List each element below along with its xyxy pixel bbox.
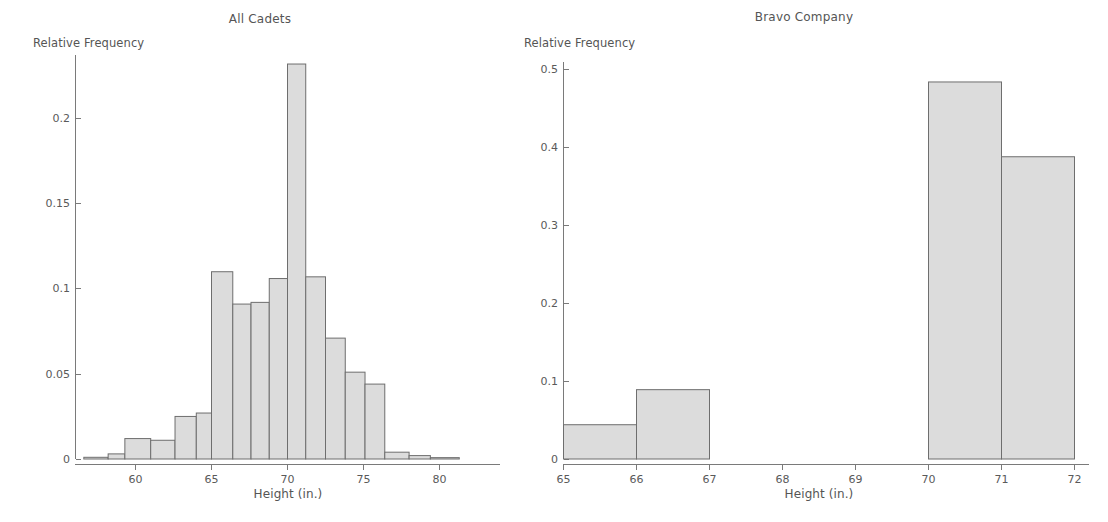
svg-text:70: 70 (281, 473, 295, 486)
svg-text:0.05: 0.05 (46, 368, 71, 381)
histogram-bar (151, 440, 175, 459)
histogram-figure: All Cadets Relative Frequency 0 0 (0, 0, 1108, 522)
svg-text:0: 0 (551, 453, 558, 466)
histogram-bar (306, 277, 326, 459)
x-axis-label-all-cadets: Height (in.) (188, 487, 388, 501)
svg-text:0.4: 0.4 (541, 141, 559, 154)
svg-text:0: 0 (63, 453, 70, 466)
svg-text:0.2: 0.2 (53, 112, 71, 125)
svg-text:0.1: 0.1 (541, 375, 559, 388)
svg-text:65: 65 (557, 473, 571, 486)
histogram-bar (212, 272, 233, 459)
svg-text:65: 65 (205, 473, 219, 486)
x-axis-tick-labels: 65 66 67 68 69 70 71 72 (557, 473, 1082, 486)
svg-text:0.1: 0.1 (53, 282, 71, 295)
histogram-bar (288, 64, 306, 459)
svg-text:67: 67 (703, 473, 717, 486)
histogram-bar (430, 458, 459, 459)
histogram-bar (269, 279, 287, 459)
x-axis-tick-labels: 60 65 70 75 80 (129, 473, 447, 486)
y-axis-ticks (76, 119, 81, 460)
svg-text:0.3: 0.3 (541, 219, 559, 232)
svg-text:66: 66 (630, 473, 644, 486)
histogram-bar (929, 82, 1002, 459)
y-axis-ticks (564, 70, 569, 460)
histogram-bar (637, 390, 710, 459)
histogram-bars-bravo-company (564, 82, 1075, 459)
svg-text:0.5: 0.5 (541, 63, 559, 76)
panel-bravo-company: Bravo Company Relative Frequency (554, 0, 1108, 522)
histogram-bar (1002, 157, 1075, 459)
histogram-bar (175, 416, 196, 459)
histogram-bar (251, 302, 269, 459)
svg-text:0.2: 0.2 (541, 297, 559, 310)
y-axis-tick-labels: 0 0.05 0.1 0.15 0.2 (46, 112, 71, 466)
svg-text:72: 72 (1068, 473, 1082, 486)
svg-text:70: 70 (922, 473, 936, 486)
plot-area-all-cadets: 0 0.05 0.1 0.15 0.2 60 65 70 (0, 0, 554, 500)
svg-text:80: 80 (433, 473, 447, 486)
histogram-bar (233, 304, 251, 459)
histogram-bar (84, 457, 108, 459)
svg-text:60: 60 (129, 473, 143, 486)
svg-text:75: 75 (357, 473, 371, 486)
panel-all-cadets: All Cadets Relative Frequency 0 0 (0, 0, 554, 522)
histogram-bar (196, 413, 211, 459)
svg-text:71: 71 (995, 473, 1009, 486)
svg-text:0.15: 0.15 (46, 197, 71, 210)
histogram-bar (326, 338, 346, 459)
histogram-bar (365, 384, 385, 459)
x-axis-ticks (564, 465, 1075, 470)
plot-area-bravo-company: 0 0.1 0.2 0.3 0.4 0.5 (554, 0, 1108, 500)
histogram-bars-all-cadets (84, 64, 459, 459)
histogram-bar (385, 452, 409, 459)
x-axis-ticks (136, 465, 440, 470)
x-axis-label-bravo-company: Height (in.) (719, 487, 919, 501)
svg-text:68: 68 (776, 473, 790, 486)
svg-text:69: 69 (849, 473, 863, 486)
histogram-bar (409, 456, 430, 459)
histogram-bar (125, 439, 151, 459)
histogram-bar (108, 454, 125, 459)
histogram-bar (345, 372, 365, 459)
histogram-bar (564, 425, 637, 459)
